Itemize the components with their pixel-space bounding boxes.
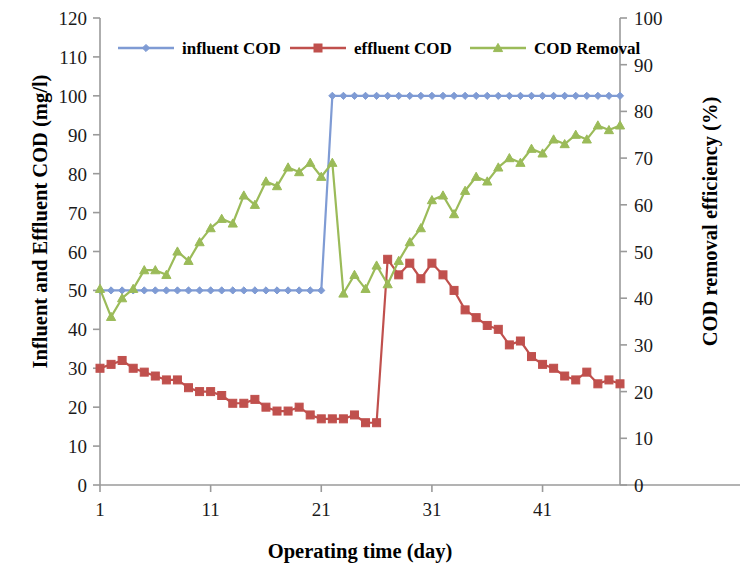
y-axis-left-tick-label: 100: [59, 86, 88, 107]
series-marker: [229, 287, 236, 294]
series-marker: [395, 271, 403, 279]
series-marker: [450, 286, 458, 294]
y-axis-left-tick-label: 30: [68, 358, 87, 379]
y-axis-right-title: COD removal efficiency (%): [699, 42, 722, 402]
y-axis-left-tick-label: 20: [68, 397, 87, 418]
series-marker: [605, 376, 613, 384]
series-marker: [594, 380, 602, 388]
y-axis-left-title: Influent and Effluent COD (mg/l): [29, 42, 52, 402]
series-marker: [416, 224, 425, 232]
y-axis-left-tick-label: 120: [59, 8, 88, 29]
legend-label: COD Removal: [534, 39, 641, 58]
x-axis-title: Operating time (day): [100, 540, 620, 563]
series-marker: [615, 121, 624, 129]
series-marker: [129, 364, 137, 372]
series-marker: [239, 191, 248, 199]
series-marker: [185, 287, 192, 294]
series-marker: [350, 270, 359, 278]
chart-plot: 0102030405060708090100110120010203040506…: [0, 0, 746, 577]
series-influent-cod: [96, 92, 623, 294]
x-axis-tick-label: 41: [533, 499, 552, 520]
series-marker: [273, 287, 280, 294]
legend-item-0[interactable]: influent COD: [118, 39, 281, 58]
series-marker: [505, 341, 513, 349]
series-marker: [273, 407, 281, 415]
series-marker: [428, 92, 435, 99]
series-group: [95, 92, 624, 427]
series-marker: [473, 92, 480, 99]
series-marker: [616, 92, 623, 99]
y-axis-left-tick-label: 90: [68, 125, 87, 146]
y-axis-right-tick-label: 100: [634, 8, 663, 29]
series-marker: [140, 368, 148, 376]
series-marker: [550, 364, 558, 372]
series-marker: [328, 415, 336, 423]
series-marker: [296, 287, 303, 294]
series-marker: [462, 92, 469, 99]
series-marker: [284, 407, 292, 415]
legend-label: influent COD: [182, 39, 281, 58]
chart-container: Influent and Effluent COD (mg/l) COD rem…: [0, 0, 746, 577]
series-marker: [428, 259, 436, 267]
series-marker: [583, 368, 591, 376]
series-marker: [307, 287, 314, 294]
y-axis-right-tick-label: 0: [634, 475, 644, 496]
series-marker: [572, 92, 579, 99]
legend-item-2[interactable]: COD Removal: [470, 39, 641, 58]
y-axis-left-tick-label: 0: [78, 475, 88, 496]
series-marker: [550, 92, 557, 99]
series-marker: [516, 337, 524, 345]
series-marker: [196, 287, 203, 294]
y-axis-left-tick-label: 110: [59, 47, 87, 68]
series-marker: [439, 92, 446, 99]
series-marker: [351, 92, 358, 99]
series-marker: [527, 353, 535, 361]
series-marker: [395, 92, 402, 99]
y-axis-left-tick-label: 40: [68, 319, 87, 340]
series-marker: [417, 275, 425, 283]
series-marker: [262, 403, 270, 411]
y-axis-right-tick-label: 40: [634, 288, 653, 309]
series-line: [100, 259, 620, 422]
series-marker: [583, 92, 590, 99]
y-axis-right-tick-label: 20: [634, 382, 653, 403]
series-marker: [185, 384, 193, 392]
series-marker: [517, 92, 524, 99]
series-marker: [461, 306, 469, 314]
series-marker: [561, 372, 569, 380]
series-marker: [306, 158, 315, 166]
legend-swatch-marker: [314, 44, 322, 52]
series-marker: [251, 287, 258, 294]
series-marker: [196, 388, 204, 396]
series-marker: [571, 130, 580, 138]
y-axis-right-tick-label: 30: [634, 335, 653, 356]
series-marker: [384, 92, 391, 99]
series-marker: [528, 92, 535, 99]
series-marker: [616, 380, 624, 388]
y-axis-right-tick-label: 50: [634, 242, 653, 263]
series-marker: [174, 287, 181, 294]
x-axis-tick-label: 11: [201, 499, 219, 520]
x-axis-tick-label: 21: [312, 499, 331, 520]
series-marker: [251, 395, 259, 403]
x-axis-tick-label: 31: [422, 499, 441, 520]
series-marker: [261, 177, 270, 185]
series-marker: [262, 287, 269, 294]
series-marker: [217, 214, 226, 222]
series-marker: [438, 191, 447, 199]
series-marker: [284, 287, 291, 294]
chart-legend: influent CODeffluent CODCOD Removal: [118, 39, 641, 58]
tick-label-group: 0102030405060708090100110120010203040506…: [59, 8, 663, 520]
series-marker: [218, 287, 225, 294]
series-marker: [96, 364, 104, 372]
series-marker: [594, 92, 601, 99]
series-marker: [340, 92, 347, 99]
series-marker: [439, 271, 447, 279]
legend-item-1[interactable]: effluent COD: [290, 39, 452, 58]
series-marker: [472, 314, 480, 322]
series-marker: [173, 376, 181, 384]
legend-label: effluent COD: [354, 39, 452, 58]
series-marker: [450, 92, 457, 99]
series-marker: [163, 287, 170, 294]
series-marker: [572, 376, 580, 384]
